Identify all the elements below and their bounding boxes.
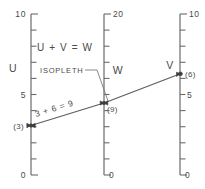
isopleth-line-group bbox=[31, 74, 181, 126]
axis-u-label-mid: 5 bbox=[21, 90, 26, 100]
marker-dot-w bbox=[102, 101, 105, 104]
axis-w-label-top: 20 bbox=[113, 9, 124, 19]
nomogram-figure: 10 5 0 U 20 0 W bbox=[0, 0, 205, 189]
axis-v-label-top: 10 bbox=[189, 9, 200, 19]
axis-w: 20 0 W bbox=[104, 9, 124, 180]
axis-v: 10 5 0 V bbox=[166, 9, 199, 180]
axis-w-label-bottom: 0 bbox=[109, 170, 114, 180]
point-label-u: (3) bbox=[13, 122, 24, 131]
sum-label: 3 + 6 = 9 bbox=[34, 98, 75, 119]
marker-dot-u bbox=[29, 124, 32, 127]
axis-w-name: W bbox=[113, 64, 124, 76]
nomogram-canvas: 10 5 0 U 20 0 W bbox=[0, 0, 205, 189]
equation-label: U + V = W bbox=[37, 42, 93, 53]
marker-dot-v bbox=[179, 72, 183, 76]
axis-u-label-bottom: 0 bbox=[21, 170, 26, 180]
axis-u-name: U bbox=[9, 62, 17, 74]
point-label-v: (6) bbox=[185, 70, 196, 79]
axis-v-label-bottom: 0 bbox=[185, 170, 190, 180]
axis-u: 10 5 0 U bbox=[9, 9, 38, 180]
point-label-w: (9) bbox=[107, 105, 118, 114]
axis-u-label-top: 10 bbox=[15, 9, 26, 19]
axis-v-label-mid: 5 bbox=[187, 90, 192, 100]
isopleth-line bbox=[31, 74, 181, 126]
isopleth-label: ISOPLETH bbox=[40, 66, 84, 75]
axis-v-name: V bbox=[166, 59, 174, 71]
